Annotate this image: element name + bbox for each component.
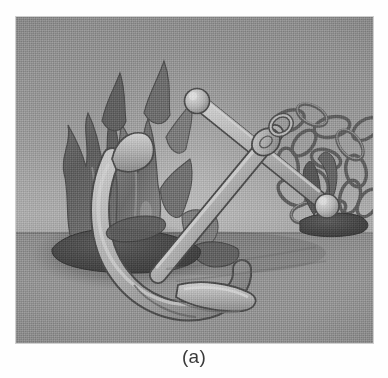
caption-row: (a)	[0, 346, 388, 368]
photograph-plate	[16, 17, 373, 343]
scene-illustration	[16, 17, 373, 343]
anchor-ball-top	[185, 89, 210, 114]
anchor-ball-bottom	[315, 194, 339, 218]
figure-caption: (a)	[182, 346, 206, 368]
figure-root: (a)	[0, 0, 388, 378]
